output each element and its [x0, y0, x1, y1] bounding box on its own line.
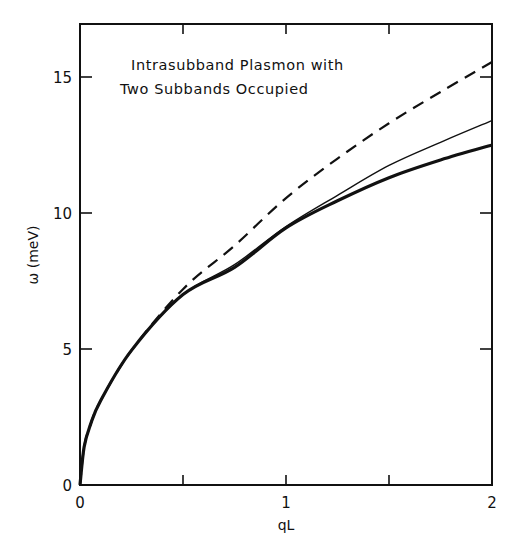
y-tick-label: 0	[62, 477, 72, 495]
x-tick-label: 1	[281, 494, 291, 512]
x-tick-label: 0	[75, 494, 85, 512]
curve-dashed	[80, 62, 492, 485]
curve-thin-solid	[80, 121, 492, 485]
y-axis-label: ω (meV)	[25, 226, 41, 285]
y-tick-label: 5	[62, 341, 72, 359]
tick-labels: 012051015	[53, 69, 497, 512]
chart-title-line-2: Two Subbands Occupied	[119, 81, 309, 97]
y-tick-label: 10	[53, 205, 72, 223]
plasmon-dispersion-chart: 012051015 Intrasubband Plasmon with Two …	[0, 0, 515, 550]
y-tick-label: 15	[53, 69, 72, 87]
data-curves	[80, 62, 492, 485]
chart-title-line-1: Intrasubband Plasmon with	[131, 57, 344, 73]
x-tick-label: 2	[487, 494, 497, 512]
curve-thick-solid	[80, 145, 492, 485]
x-axis-label: qL	[278, 517, 295, 533]
